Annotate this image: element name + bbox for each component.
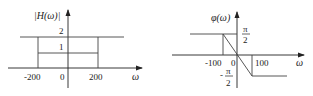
tick-pi-half-den: 2 bbox=[243, 35, 248, 45]
y-label: φ(ω) bbox=[211, 12, 231, 24]
phase-plot: φ(ω) π 2 - π 2 -100 0 100 ω bbox=[172, 12, 304, 88]
tick-neg200: -200 bbox=[24, 72, 41, 82]
tick-2: 2 bbox=[59, 26, 64, 36]
tick-100: 100 bbox=[255, 58, 269, 68]
magnitude-plot: |H(ω)| 2 1 -200 0 200 ω bbox=[8, 10, 142, 88]
tick-200: 200 bbox=[89, 72, 103, 82]
x-label: ω bbox=[132, 71, 139, 82]
tick-0: 0 bbox=[60, 72, 65, 82]
tick-0: 0 bbox=[231, 58, 236, 68]
plots-canvas: |H(ω)| 2 1 -200 0 200 ω φ(ω) π 2 - π 2 bbox=[0, 0, 313, 96]
tick-neg-pi-den: 2 bbox=[226, 78, 231, 88]
x-label: ω bbox=[296, 57, 303, 68]
y-label: |H(ω)| bbox=[34, 10, 60, 22]
tick-pi-half-num: π bbox=[243, 24, 248, 34]
figure: |H(ω)| 2 1 -200 0 200 ω φ(ω) π 2 - π 2 bbox=[0, 0, 313, 96]
tick-1: 1 bbox=[59, 42, 64, 52]
tick-neg100: -100 bbox=[205, 58, 222, 68]
tick-neg-minus: - bbox=[220, 70, 223, 80]
